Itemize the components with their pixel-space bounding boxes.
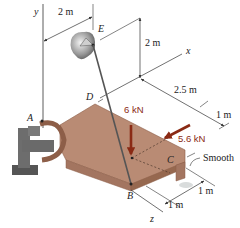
x-axis-label: x bbox=[185, 45, 191, 56]
dim-label-vertical: 2 m bbox=[145, 37, 161, 48]
point-D-label: D bbox=[85, 91, 94, 102]
dim-label-2-5m: 2.5 m bbox=[174, 84, 197, 95]
dim-label-1m-z-lower: 1 m bbox=[168, 199, 184, 210]
y-axis: y bbox=[33, 4, 43, 128]
point-D: D bbox=[85, 91, 103, 102]
ball-joint-E: E bbox=[71, 23, 105, 59]
support-A: A bbox=[12, 112, 64, 175]
point-C-label: C bbox=[167, 154, 174, 165]
dim-label-1m-x: 1 m bbox=[216, 109, 232, 120]
plate bbox=[60, 104, 193, 191]
z-axis: z bbox=[131, 190, 163, 224]
point-A-label: A bbox=[26, 112, 34, 123]
force-5-6kN: 5.6 kN bbox=[165, 125, 206, 144]
y-axis-label: y bbox=[33, 6, 39, 17]
point-E-label: E bbox=[97, 23, 104, 34]
z-axis-label: z bbox=[149, 213, 154, 224]
smooth-note: Smooth bbox=[187, 152, 234, 166]
rigid-body-diagram: y 2 m 2 m x 2.5 m 1 m bbox=[0, 0, 240, 228]
dim-label-top: 2 m bbox=[58, 6, 74, 17]
dim-label-1m-z-upper: 1 m bbox=[198, 185, 214, 196]
dimension-x-span: 2.5 m 1 m bbox=[141, 79, 232, 129]
point-B-label: B bbox=[127, 190, 133, 201]
force-6kN-label: 6 kN bbox=[124, 104, 144, 115]
force-5-6kN-label: 5.6 kN bbox=[178, 133, 206, 144]
dimension-vertical-2m: 2 m bbox=[100, 18, 161, 78]
smooth-label: Smooth bbox=[203, 152, 234, 163]
